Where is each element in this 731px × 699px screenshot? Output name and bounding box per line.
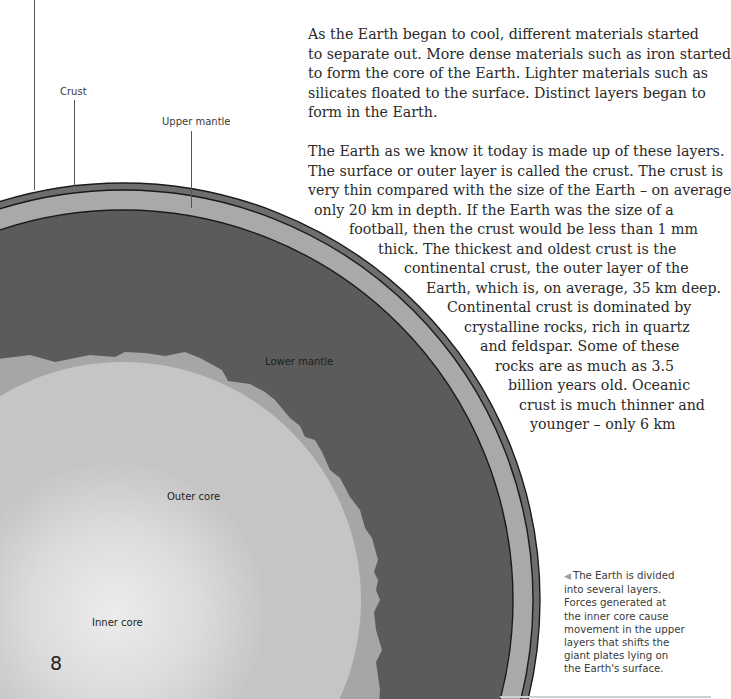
text-line: continental crust, the outer layer of th…	[404, 259, 689, 279]
text-line: very thin compared with the size of the …	[308, 181, 731, 201]
text-line: Continental crust is dominated by	[447, 298, 691, 318]
text-line: thick. The thickest and oldest crust is …	[378, 240, 676, 260]
caption-line: the Earth's surface.	[564, 662, 714, 675]
label-upper-mantle: Upper mantle	[162, 116, 231, 127]
caption-line: movement in the upper	[564, 623, 714, 636]
text-line: only 20 km in depth. If the Earth was th…	[314, 201, 674, 221]
caption-line: the inner core cause	[564, 610, 714, 623]
upper-mantle-leader-line	[191, 131, 192, 208]
text-line: form in the Earth.	[308, 103, 437, 123]
text-line: silicates floated to the surface. Distin…	[308, 84, 706, 104]
text-line: to separate out. More dense materials su…	[308, 45, 731, 65]
text-line: The surface or outer layer is called the…	[308, 162, 723, 182]
label-outer-core: Outer core	[167, 491, 220, 502]
label-crust: Crust	[60, 86, 87, 97]
text-line: Earth, which is, on average, 35 km deep.	[426, 279, 721, 299]
bottom-rule	[500, 696, 711, 698]
text-line: As the Earth began to cool, different ma…	[308, 25, 699, 45]
label-inner-core: Inner core	[92, 617, 143, 628]
left-arrow-icon: ◀	[564, 571, 571, 581]
caption-line: ◀The Earth is divided	[564, 569, 714, 583]
text-line: rocks are as much as 3.5	[495, 357, 674, 377]
page-number: 8	[50, 652, 62, 674]
text-line: to form the core of the Earth. Lighter m…	[308, 64, 708, 84]
label-lower-mantle: Lower mantle	[265, 356, 333, 367]
text-line: crystalline rocks, rich in quartz	[464, 318, 690, 338]
text-line: crust is much thinner and	[519, 396, 705, 416]
top-margin-rule	[34, 0, 35, 190]
crust-leader-line	[74, 100, 75, 187]
text-line: football, then the crust would be less t…	[349, 220, 698, 240]
caption-line: layers that shifts the	[564, 636, 714, 649]
text-line: younger – only 6 km	[530, 415, 676, 435]
caption-line: into several layers.	[564, 583, 714, 596]
text-line: billion years old. Oceanic	[508, 376, 690, 396]
caption-line: giant plates lying on	[564, 649, 714, 662]
text-line: The Earth as we know it today is made up…	[308, 142, 724, 162]
text-line: and feldspar. Some of these	[480, 337, 679, 357]
figure-caption: ◀The Earth is divided into several layer…	[564, 569, 714, 676]
caption-line: Forces generated at	[564, 596, 714, 609]
